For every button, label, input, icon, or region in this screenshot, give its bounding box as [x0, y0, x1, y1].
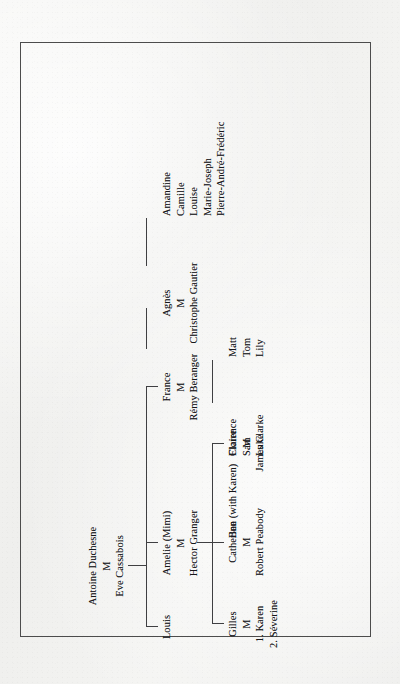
node-amelie-mimi-hector-granger: Amelie (Mimi) M Hector Granger — [160, 488, 201, 598]
node-gilles-karen-severine: Gilles M 1. Karen 2. Séverine — [226, 574, 280, 674]
scanned-page: Antoine Duchesne M Eve Cassabois Louis A… — [0, 0, 400, 684]
child-name: Lily — [253, 267, 267, 357]
node-louis: Louis — [160, 592, 174, 662]
spouse-second: 2. Séverine — [267, 574, 281, 674]
person-name: Christophe Gautier — [187, 243, 201, 363]
child-name: Pierre-André-Frédéric — [214, 66, 228, 216]
person-name: Hector Granger — [187, 488, 201, 598]
connector-gilles-to-ben — [212, 542, 213, 582]
connector-gen2-drop-amelie — [146, 542, 158, 543]
person-name: Eve Cassabois — [113, 506, 127, 626]
person-name: Agnès — [160, 243, 174, 363]
person-name: Louis — [160, 592, 174, 662]
child-name: Luke — [253, 366, 267, 456]
connector-catherine-to-children — [212, 459, 213, 502]
person-name: Gilles — [226, 574, 240, 674]
child-name: Matt — [226, 267, 240, 357]
child-name: Amandine — [160, 66, 174, 216]
child-name: Marie-Joseph — [201, 66, 215, 216]
connector-gen2-drop-louis — [146, 626, 158, 627]
child-name: Tom — [240, 267, 254, 357]
connector-agnes-to-children — [146, 218, 147, 266]
connector-gen2-drop-france — [146, 386, 158, 387]
connector-gen2-spine — [146, 386, 147, 627]
spouse-first: 1. Karen — [253, 574, 267, 674]
node-agnes-christophe-gautier: Agnès M Christophe Gautier — [160, 243, 201, 363]
marriage-mark: M — [240, 574, 254, 674]
node-antoine-duchesne-eve-cassabois: Antoine Duchesne M Eve Cassabois — [86, 506, 127, 626]
person-name: Amelie (Mimi) — [160, 488, 174, 598]
marriage-mark: M — [174, 488, 188, 598]
node-gautier-children: Amandine Camille Louise Marie-Joseph Pie… — [160, 66, 228, 216]
child-name: Ben (with Karen) — [226, 418, 240, 538]
node-clarke-children: Matt Tom Lily — [226, 267, 267, 357]
connector-claire-to-children — [212, 360, 213, 403]
connector-gen3-drop-gilles — [212, 623, 224, 624]
person-name: Antoine Duchesne — [86, 506, 100, 626]
connector-gen3-drop-catherine — [212, 542, 224, 543]
node-ben-with-karen: Ben (with Karen) — [226, 418, 240, 538]
connector-root-stem — [128, 565, 146, 566]
child-name: Sam — [240, 366, 254, 456]
marriage-mark: M — [174, 243, 188, 363]
marriage-mark: M — [100, 506, 114, 626]
connector-gen3-drop-claire — [212, 443, 224, 444]
child-name: Camille — [174, 66, 188, 216]
child-name: Louise — [187, 66, 201, 216]
connector-france-to-agnes — [146, 308, 147, 349]
family-tree-canvas: Antoine Duchesne M Eve Cassabois Louis A… — [0, 0, 400, 684]
